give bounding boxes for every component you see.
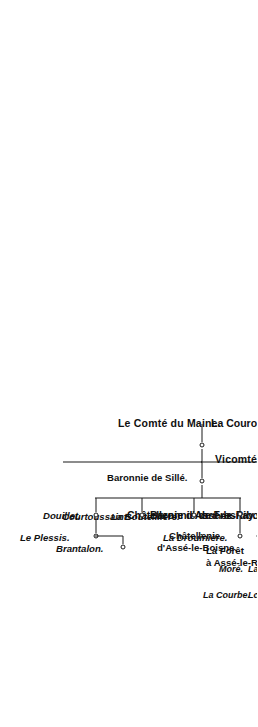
edge-orthes-to-la-drouiniere xyxy=(240,525,241,533)
node-la-bouteilliere-dot xyxy=(192,513,197,518)
node-comte-du-maine-dot xyxy=(200,443,205,448)
edge-sille-to-courtoussaint xyxy=(142,498,143,512)
edge-douillet-to-le-plessis xyxy=(96,518,97,533)
label-la-beauce: La Beauce. xyxy=(248,565,257,575)
edge-orthes-stub xyxy=(240,517,241,525)
label-le-plessis: Le Plessis. xyxy=(20,533,70,543)
node-baronnie-fresnay-dot xyxy=(257,513,258,518)
label-le-comte-du-maine: Le Comté du Maine. xyxy=(118,418,221,429)
label-more: Moré. xyxy=(219,565,243,575)
label-chatellenie-asse-boisne-line2: d'Assé-le-Boisne. xyxy=(157,543,237,553)
label-loriere: Lorière. xyxy=(248,591,257,601)
spine-comte-du-maine xyxy=(63,462,202,463)
label-brantalon: Brantalon. xyxy=(56,544,103,554)
label-la-courbe: La Courbe. xyxy=(203,591,250,601)
edge-sille-to-douillet xyxy=(96,498,97,512)
node-orthes-dot xyxy=(238,512,243,517)
label-vicomte-de-beaumont: Vicomté de Beaumont. xyxy=(215,454,257,465)
label-orthes: · Orthes. xyxy=(195,511,234,521)
label-douillet: Douillet. xyxy=(43,511,81,521)
node-chatellenie-asse-boisne-dot xyxy=(257,534,258,539)
edge-comte-to-baronnie-sille xyxy=(202,462,203,478)
spine-baronnie-sille xyxy=(95,498,241,499)
spine-le-plessis xyxy=(95,536,123,537)
node-baronnie-sille-dot xyxy=(200,479,205,484)
label-la-drouiniere: La Drouinière. xyxy=(163,533,228,543)
node-la-drouiniere-dot xyxy=(238,534,243,539)
edge-le-plessis-to-brantalon xyxy=(123,536,124,544)
genealogy-chart: La Couronne. Le Comté du Maine. Vicomté … xyxy=(0,0,257,727)
node-courtoussaint-dot xyxy=(140,513,145,518)
edge-comte-stub xyxy=(202,449,203,462)
edge-sille-to-la-bouteilliere xyxy=(194,498,195,512)
node-brantalon-dot xyxy=(121,545,126,550)
label-baronnie-de-sille: Baronnie de Sillé. xyxy=(107,473,188,483)
node-douillet-dot xyxy=(94,513,99,518)
edge-sille-to-orthes xyxy=(240,498,241,511)
edge-sille-stub xyxy=(202,485,203,498)
